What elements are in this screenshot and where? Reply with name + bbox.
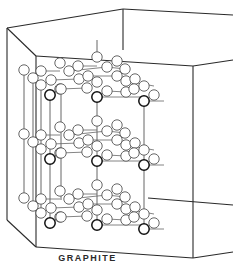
carbon-atom [130, 74, 140, 84]
carbon-atom [139, 209, 149, 219]
carbon-atom [92, 220, 102, 230]
carbon-atom [92, 92, 102, 102]
carbon-atom [56, 212, 66, 222]
carbon-atom [83, 199, 93, 209]
carbon-atom [149, 154, 159, 164]
carbon-atom [92, 156, 102, 166]
carbon-atom [82, 147, 92, 157]
carbon-atom [112, 120, 122, 130]
carbon-atom [92, 180, 102, 190]
box-edge [148, 198, 233, 205]
carbon-atom [45, 90, 55, 100]
box-edge [7, 9, 123, 28]
carbon-atom [149, 90, 159, 100]
graphite-diagram [0, 0, 243, 270]
carbon-atom [102, 214, 112, 224]
carbon-atom [46, 203, 56, 213]
carbon-atom [55, 58, 65, 68]
carbon-atom [92, 205, 102, 215]
carbon-atom [139, 224, 149, 234]
carbon-atom [92, 77, 102, 87]
carbon-atom [102, 126, 112, 136]
carbon-atom [112, 184, 122, 194]
carbon-atom [19, 65, 29, 75]
figure-caption: GRAPHITE [0, 253, 175, 263]
box-edge [123, 9, 233, 15]
carbon-atom [45, 218, 55, 228]
box-edge [7, 28, 36, 56]
carbon-atom [56, 148, 66, 158]
carbon-atom [102, 150, 112, 160]
carbon-atom [102, 86, 112, 96]
carbon-atom [129, 84, 139, 94]
carbon-atom [92, 116, 102, 126]
carbon-atom [112, 56, 122, 66]
carbon-atom [55, 122, 65, 132]
carbon-atom [45, 154, 55, 164]
box-edge [7, 220, 36, 247]
carbon-atom [36, 144, 46, 154]
carbon-atom [82, 211, 92, 221]
carbon-atom [73, 125, 83, 135]
carbon-atom [102, 190, 112, 200]
carbon-atom [73, 189, 83, 199]
carbon-atom [139, 81, 149, 91]
carbon-atom [73, 61, 83, 71]
carbon-atom [149, 218, 159, 228]
carbon-atom [130, 202, 140, 212]
carbon-atom [36, 80, 46, 90]
box-edge [193, 60, 233, 66]
carbon-atom [139, 145, 149, 155]
carbon-atom [83, 135, 93, 145]
carbon-atom [19, 129, 29, 139]
carbon-atom [92, 52, 102, 62]
carbon-atom [83, 71, 93, 81]
carbon-atom [56, 84, 66, 94]
carbon-atom [55, 186, 65, 196]
carbon-atom [129, 212, 139, 222]
carbon-atom [129, 148, 139, 158]
box-edge [193, 252, 233, 258]
carbon-atom [130, 138, 140, 148]
carbon-atom [36, 208, 46, 218]
carbon-atom [139, 160, 149, 170]
carbon-atom [139, 96, 149, 106]
carbon-atom [46, 75, 56, 85]
carbon-atom [92, 141, 102, 151]
carbon-atom [19, 193, 29, 203]
carbon-atom [82, 83, 92, 93]
carbon-atom [46, 139, 56, 149]
carbon-atom [102, 62, 112, 72]
